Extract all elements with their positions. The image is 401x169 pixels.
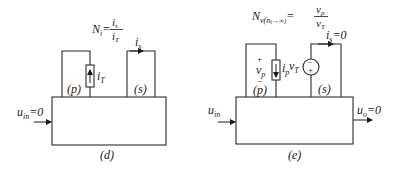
source-plus-sign: + [308,65,313,75]
output-label-e: uo=0 [357,103,381,119]
equation-d: Ni= is iT [91,16,123,44]
secondary-current-label-e: is=0 [326,28,347,44]
svg-text:vp: vp [316,3,325,17]
source-label-d: iT [97,69,105,85]
diagram-canvas: iT (p) is (s) Ni= is iT uin=0 (d) ip + v… [0,0,401,169]
secondary-current-label-d: is [135,35,141,51]
equation-e: Nv(ni→∞)= vp vT [251,3,328,31]
input-label-e: uin [208,103,220,119]
source-label-e: vT [289,59,299,75]
port-label-s-e: (s) [318,82,331,96]
figure-d: iT (p) is (s) Ni= is iT uin=0 (d) [17,16,166,162]
svg-text:Ni=: Ni= [91,22,110,38]
port-label-p-d: (p) [67,82,81,96]
svg-text:Nv(ni→∞)=: Nv(ni→∞)= [251,9,294,25]
network-box-e [236,97,353,144]
input-label-d: uin=0 [17,105,43,121]
figure-e: ip + vp − (p) − + vT is=0 (s) Nv(ni→∞)= … [208,3,381,162]
port-label-s-d: (s) [134,82,147,96]
caption-e: (e) [288,148,301,162]
svg-text:iT: iT [112,30,120,44]
port-label-p-e: (p) [253,83,267,97]
network-box-d [52,97,166,145]
svg-text:is: is [112,16,118,30]
caption-d: (d) [100,148,114,162]
svg-text:vT: vT [316,17,326,31]
